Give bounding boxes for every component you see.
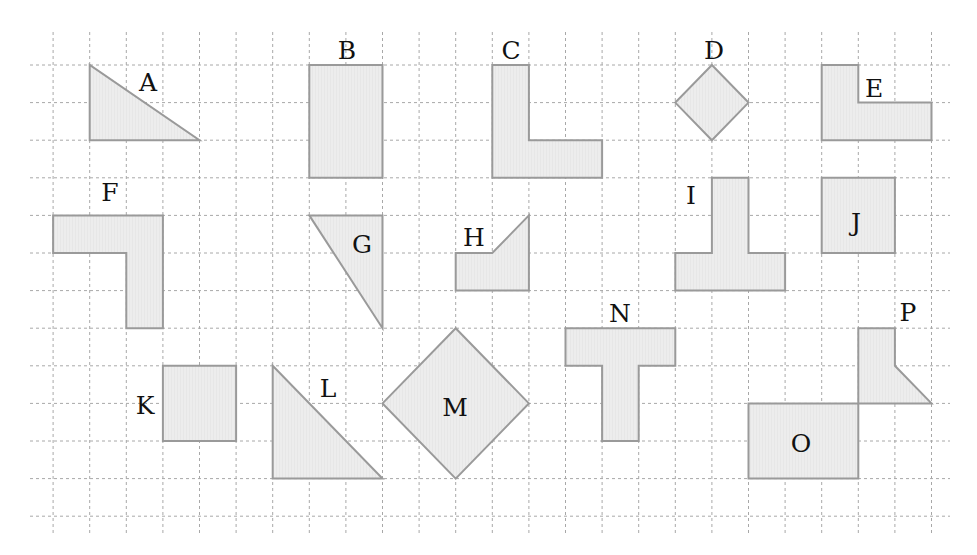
shape-f xyxy=(53,215,163,328)
shape-b xyxy=(309,65,382,178)
grid-with-shapes: ABCDEFGHIJKLMNOP xyxy=(0,0,977,555)
shape-label-i: I xyxy=(686,181,696,210)
shape-label-d: D xyxy=(704,36,724,65)
shape-label-a: A xyxy=(138,68,158,97)
shape-layer xyxy=(53,65,931,479)
shape-label-f: F xyxy=(101,178,118,207)
clipped-instruction-text xyxy=(40,0,960,8)
shape-label-h: H xyxy=(463,223,485,252)
shape-label-b: B xyxy=(338,36,356,65)
shape-d xyxy=(675,65,748,140)
shape-label-c: C xyxy=(501,36,520,65)
shape-label-k: K xyxy=(136,391,156,420)
shape-k xyxy=(163,366,236,441)
shape-label-e: E xyxy=(865,74,883,103)
shape-label-g: G xyxy=(352,230,372,259)
shape-c xyxy=(492,65,602,178)
shape-n xyxy=(566,328,676,441)
shape-label-p: P xyxy=(900,298,917,327)
shape-label-o: O xyxy=(791,429,812,458)
shape-label-l: L xyxy=(320,374,337,403)
shape-label-n: N xyxy=(609,299,631,328)
shape-label-m: M xyxy=(442,393,468,422)
shapes-diagram: ABCDEFGHIJKLMNOP xyxy=(0,0,977,555)
